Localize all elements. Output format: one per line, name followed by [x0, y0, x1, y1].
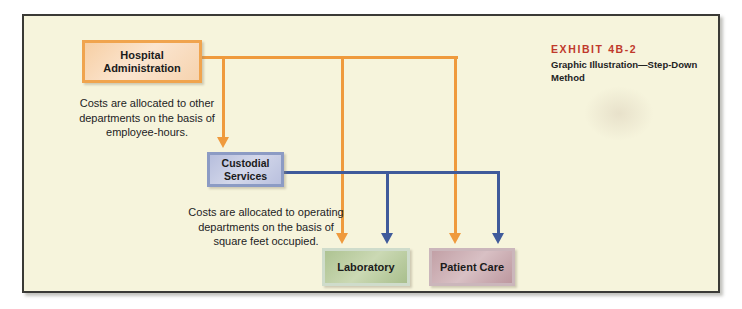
arrowhead-admin-to-patient: [449, 233, 461, 244]
edge-custodial-trunk: [282, 171, 500, 174]
caption-custodial-allocation-basis: Costs are allocated to operating departm…: [182, 205, 350, 249]
caption-admin-allocation-basis: Costs are allocated to other departments…: [52, 96, 242, 140]
exhibit-number: EXHIBIT 4B-2: [551, 43, 721, 55]
node-patient-care-label: Patient Care: [440, 261, 504, 274]
node-patient-care[interactable]: Patient Care: [429, 248, 515, 286]
node-hospital-administration-label: Hospital Administration: [103, 49, 181, 74]
edge-admin-to-patient-stem: [454, 56, 457, 234]
exhibit-caption: EXHIBIT 4B-2 Graphic Illustration—Step-D…: [551, 43, 721, 84]
arrowhead-custodial-to-patient: [492, 233, 504, 244]
node-custodial-services-label: Custodial Services: [222, 157, 270, 182]
node-custodial-services[interactable]: Custodial Services: [207, 152, 284, 187]
edge-custodial-to-patient-stem: [497, 171, 500, 234]
arrowhead-custodial-to-lab: [381, 233, 393, 244]
paper-smudge: [584, 86, 654, 141]
diagram-frame: EXHIBIT 4B-2 Graphic Illustration—Step-D…: [22, 14, 720, 293]
node-hospital-administration[interactable]: Hospital Administration: [82, 40, 202, 83]
edge-admin-trunk: [200, 56, 458, 59]
exhibit-page: EXHIBIT 4B-2 Graphic Illustration—Step-D…: [0, 0, 742, 309]
node-laboratory-label: Laboratory: [337, 261, 394, 274]
edge-custodial-to-lab-stem: [386, 171, 389, 234]
node-laboratory[interactable]: Laboratory: [322, 248, 410, 286]
exhibit-subtitle: Graphic Illustration—Step-Down Method: [551, 59, 701, 84]
